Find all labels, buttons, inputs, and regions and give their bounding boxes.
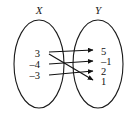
range-element-1: 1 [101,76,106,87]
range-set-group: Y 5 –1 2 1 [73,4,123,108]
range-set-ellipse [73,20,123,108]
mapping-diagram-figure: X 3 –4 –3 Y 5 –1 2 1 [0,0,131,114]
mapping-arrows-group [49,50,93,80]
range-set-title: Y [95,4,103,16]
domain-set-title: X [35,4,44,16]
arrow-3-to-5 [49,50,93,52]
mapping-diagram-canvas: X 3 –4 –3 Y 5 –1 2 1 [0,0,131,114]
domain-element-neg3: –3 [29,70,41,81]
arrow-neg3-to-2 [49,71,93,75]
domain-element-neg4: –4 [29,59,41,70]
arrow-neg4-to-neg1 [49,61,93,64]
domain-element-3: 3 [35,48,40,59]
domain-set-group: X 3 –4 –3 [14,4,64,108]
arrow-3-to-1 [49,54,93,80]
